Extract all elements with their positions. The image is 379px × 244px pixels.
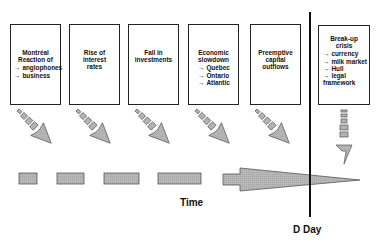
box-title: Fall in (129, 49, 178, 56)
box-breakup-crisis: Break-up crisis →currency →milk market →… (318, 25, 370, 105)
box-interest-rates: Rise of interest rates (69, 24, 120, 105)
box-title: Economic (189, 49, 238, 56)
list-item: →milk market (323, 58, 369, 65)
dashed-arrow-5 (250, 104, 296, 150)
box-title: crisis (319, 42, 369, 49)
dashed-arrow-down (336, 110, 352, 164)
dashed-arrow-1 (12, 104, 58, 150)
box-capital-outflows: Preemptive capital outflows (250, 24, 301, 105)
list-item: →business (14, 72, 60, 79)
list-item: →Québec (198, 64, 238, 71)
list-item: →legal framework (323, 72, 349, 86)
box-title: Break-up (319, 35, 369, 42)
list-item: →currency (323, 50, 369, 57)
diagram-canvas: Montréal Reaction of →anglophones →busin… (0, 0, 379, 244)
box-title: Reaction of (11, 56, 60, 63)
dashed-arrow-4 (190, 104, 236, 150)
box-title: investments (129, 56, 178, 63)
box-title: Montréal (11, 49, 60, 56)
list-item: →anglophones (14, 64, 60, 71)
box-title: outflows (251, 63, 300, 70)
list-item: →Ontario (198, 72, 238, 79)
box-items: →currency →milk market →Hull →legal fram… (319, 50, 369, 86)
box-title: rates (70, 63, 119, 70)
box-title: Rise of (70, 49, 119, 56)
time-label: Time (180, 197, 203, 208)
timeline (19, 168, 360, 191)
box-title: slowdown (189, 56, 238, 63)
list-item: →Hull (323, 65, 369, 72)
box-economic-slowdown: Economic slowdown →Québec →Ontario →Atla… (188, 24, 239, 105)
box-title: capital (251, 56, 300, 63)
box-montreal: Montréal Reaction of →anglophones →busin… (10, 24, 61, 105)
box-title: Preemptive (251, 49, 300, 56)
box-items: →Québec →Ontario →Atlantic (189, 64, 238, 86)
box-title: interest (70, 56, 119, 63)
dday-label: D Day (293, 224, 321, 235)
box-investments: Fall in investments (128, 24, 179, 105)
timeline-arrow (223, 168, 360, 191)
dashed-arrow-3 (130, 104, 176, 150)
dashed-arrow-2 (71, 104, 117, 150)
box-items: →anglophones →business (11, 64, 60, 78)
list-item: →Atlantic (198, 79, 238, 86)
